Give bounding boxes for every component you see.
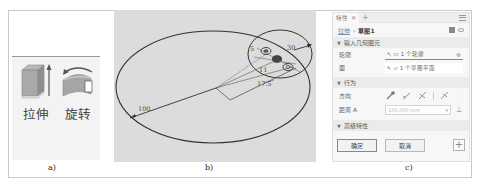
face-value: 1 个草图平面 (400, 64, 435, 72)
svg-text:11: 11 (259, 66, 267, 74)
collapse-triangle-icon: ▼ (337, 123, 341, 129)
extrude-label: 拉伸 (16, 104, 56, 123)
large-ellipse (116, 31, 310, 143)
properties-panel: 特性 ✕ + 拉伸 › 草图1 ▼ 输入几何图元 轮廓 ↖ ▭ 1 个轮廓 ⊗ … (332, 12, 470, 162)
direction-flipped-icon[interactable] (401, 91, 412, 100)
hamburger-menu-icon[interactable] (459, 15, 466, 21)
flip-direction-icon[interactable]: ⊥ (455, 106, 463, 114)
breadcrumb: 拉伸 › 草图1 (333, 23, 469, 37)
profile-value: 1 个轮廓 (401, 50, 424, 58)
breadcrumb-parent[interactable]: 拉伸 (338, 26, 350, 35)
face-selector[interactable]: ↖ ▱ 1 个草图平面 (385, 63, 463, 73)
breadcrumb-current: 草图1 (358, 26, 374, 35)
clear-icon[interactable]: ⊗ (456, 51, 461, 58)
section-title: 输入几何图元 (344, 38, 380, 47)
direction-asymmetric-icon[interactable] (439, 91, 450, 100)
direction-symmetric-icon[interactable] (417, 91, 428, 100)
button-bar: 确定 取消 + (337, 138, 465, 152)
extrude-icon (19, 62, 53, 100)
preset-icon[interactable] (449, 27, 455, 33)
ok-button[interactable]: 确定 (337, 139, 377, 152)
plane-icon: ▱ (394, 65, 398, 71)
face-label: 面 (339, 63, 385, 72)
cancel-button[interactable]: 取消 (385, 139, 425, 152)
apply-add-button[interactable]: + (453, 139, 465, 151)
revolve-icon (59, 62, 97, 100)
collapse-triangle-icon: ▼ (337, 80, 341, 86)
sketch-canvas[interactable]: 100 5 30 11 17.5 (114, 10, 316, 162)
svg-text:17.5: 17.5 (257, 80, 271, 88)
section-title: 行为 (344, 78, 356, 87)
revolve-button[interactable]: 旋转 (58, 62, 98, 123)
add-tab-icon[interactable]: + (362, 13, 369, 22)
profile-selector[interactable]: ↖ ▭ 1 个轮廓 ⊗ (385, 50, 463, 60)
row-profile: 轮廓 ↖ ▭ 1 个轮廓 ⊗ (333, 48, 469, 61)
profile-label: 轮廓 (339, 50, 385, 59)
svg-text:5: 5 (250, 45, 254, 53)
svg-text:100: 100 (138, 105, 150, 113)
direction-default-icon[interactable] (385, 91, 396, 100)
cursor-icon: ↖ (387, 51, 392, 57)
svg-text:30: 30 (287, 44, 295, 52)
profile-icon: ▭ (394, 51, 399, 57)
section-title: 高级特性 (344, 121, 368, 130)
dropdown-arrow-icon[interactable]: ▾ (445, 107, 448, 113)
close-icon[interactable]: ✕ (351, 13, 356, 23)
preview-icon[interactable] (458, 28, 464, 32)
sketch-drawing: 100 5 30 11 17.5 (114, 10, 316, 162)
small-ellipse (248, 30, 312, 78)
tab-label: 特性 (336, 13, 348, 23)
distance-value: 100.000 mm (388, 107, 420, 113)
revolve-label: 旋转 (58, 104, 98, 123)
cursor-icon: ↖ (387, 65, 392, 71)
collapse-triangle-icon: ▼ (337, 40, 341, 46)
direction-label: 方向 (339, 91, 385, 100)
more-icon[interactable]: · (461, 92, 463, 99)
divider (433, 92, 434, 100)
row-face: 面 ↖ ▱ 1 个草图平面 (333, 61, 469, 74)
caption-a: a) (48, 163, 56, 172)
row-direction: 方向 · (333, 88, 469, 103)
section-behavior[interactable]: ▼ 行为 (333, 77, 469, 88)
row-distance: 距离 A 100.000 mm ▾ ⊥ (333, 103, 469, 116)
distance-label: 距离 A (339, 105, 385, 114)
caption-c: c) (405, 163, 413, 172)
caption-b: b) (205, 163, 213, 172)
panel-tab-bar: 特性 ✕ + (333, 13, 469, 23)
distance-input[interactable]: 100.000 mm ▾ (385, 105, 451, 115)
extrude-button[interactable]: 拉伸 (16, 62, 56, 123)
section-advanced[interactable]: ▼ 高级特性 (333, 120, 469, 131)
ribbon-divider (12, 56, 100, 57)
breadcrumb-separator: › (353, 27, 355, 34)
tab-properties[interactable]: 特性 ✕ (333, 13, 359, 23)
section-input-geometry[interactable]: ▼ 输入几何图元 (333, 37, 469, 48)
